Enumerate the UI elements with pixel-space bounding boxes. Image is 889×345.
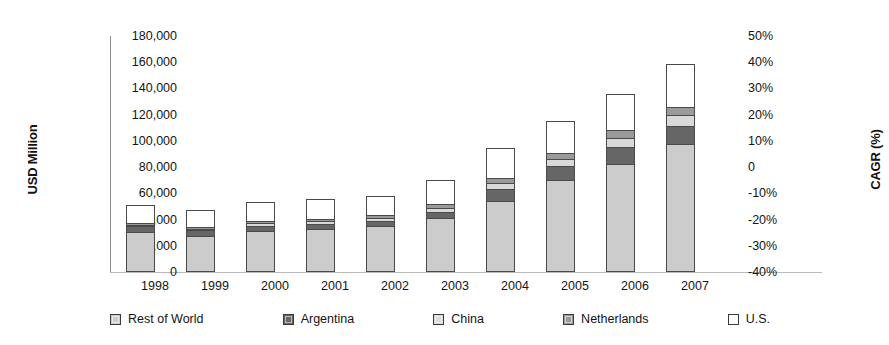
y-tick-right-3: -10%	[748, 187, 828, 199]
bar-1999[interactable]	[186, 210, 215, 272]
bar-segment-rest-of-world-1999	[187, 236, 214, 271]
bar-segment-u-s-1999	[187, 211, 214, 226]
bar-segment-u-s-2004	[487, 149, 514, 178]
legend-swatch-rest-of-world	[110, 314, 121, 325]
bar-2003[interactable]	[426, 180, 455, 272]
bar-segment-rest-of-world-2002	[367, 226, 394, 271]
bar-segment-rest-of-world-2004	[487, 201, 514, 271]
y-axis-title-right: CAGR (%)	[868, 80, 883, 240]
bar-segment-rest-of-world-1998	[127, 232, 154, 271]
chart-container: USD Million CAGR (%) 020,00040,00060,000…	[0, 0, 889, 345]
bar-2004[interactable]	[486, 148, 515, 272]
y-tick-right-0: -40%	[748, 266, 828, 278]
y-tick-right-2: -20%	[748, 214, 828, 226]
bar-segment-u-s-2006	[607, 95, 634, 130]
plot-area	[110, 36, 710, 272]
bar-segment-china-2006	[607, 138, 634, 146]
legend-label-1: Argentina	[301, 312, 355, 326]
y-tick-right-9: 50%	[748, 30, 828, 42]
legend-label-2: China	[451, 312, 484, 326]
bar-1998[interactable]	[126, 205, 155, 272]
bar-segment-u-s-2003	[427, 181, 454, 204]
bar-2006[interactable]	[606, 94, 635, 272]
bar-2007[interactable]	[666, 64, 695, 272]
bar-segment-netherlands-2007	[667, 107, 694, 115]
bar-2001[interactable]	[306, 199, 335, 272]
bar-2000[interactable]	[246, 202, 275, 272]
chart-legend: Rest of WorldArgentinaChinaNetherlandsU.…	[110, 312, 770, 326]
y-tick-right-5: 10%	[748, 135, 828, 147]
legend-swatch-argentina	[283, 314, 294, 325]
y-tick-right-7: 30%	[748, 82, 828, 94]
bar-segment-u-s-2000	[247, 203, 274, 221]
legend-swatch-china	[433, 314, 444, 325]
bar-segment-argentina-2005	[547, 166, 574, 180]
legend-item-rest-of-world[interactable]: Rest of World	[110, 312, 204, 326]
bar-segment-rest-of-world-2000	[247, 231, 274, 271]
y-tick-right-8: 40%	[748, 56, 828, 68]
bar-2005[interactable]	[546, 121, 575, 272]
legend-item-u-s[interactable]: U.S.	[728, 312, 770, 326]
legend-swatch-netherlands	[563, 314, 574, 325]
bar-segment-argentina-2007	[667, 126, 694, 145]
legend-item-netherlands[interactable]: Netherlands	[563, 312, 648, 326]
bar-segment-netherlands-2006	[607, 130, 634, 138]
x-label-2007: 2007	[660, 279, 730, 293]
y-tick-right-4: 0	[748, 161, 828, 173]
bar-segment-china-2007	[667, 115, 694, 125]
bar-segment-rest-of-world-2006	[607, 164, 634, 271]
bar-segment-u-s-1998	[127, 206, 154, 223]
y-tick-right-1: -30%	[748, 240, 828, 252]
bar-segment-u-s-2005	[547, 122, 574, 153]
bar-segment-u-s-2007	[667, 65, 694, 107]
legend-label-3: Netherlands	[581, 312, 648, 326]
legend-swatch-us	[728, 314, 739, 325]
bar-segment-argentina-2004	[487, 189, 514, 201]
bar-segment-rest-of-world-2001	[307, 229, 334, 271]
bar-2002[interactable]	[366, 196, 395, 272]
legend-item-argentina[interactable]: Argentina	[283, 312, 355, 326]
bar-segment-argentina-2006	[607, 147, 634, 165]
bar-segment-u-s-2002	[367, 197, 394, 215]
legend-label-0: Rest of World	[128, 312, 204, 326]
bar-segment-china-2005	[547, 159, 574, 166]
bar-segment-rest-of-world-2005	[547, 180, 574, 271]
bar-segment-u-s-2001	[307, 200, 334, 218]
bar-segment-rest-of-world-2003	[427, 218, 454, 271]
bar-segment-rest-of-world-2007	[667, 144, 694, 271]
x-axis-line	[110, 272, 822, 273]
y-axis-title-left: USD Million	[25, 80, 40, 240]
legend-item-china[interactable]: China	[433, 312, 484, 326]
y-tick-right-6: 20%	[748, 109, 828, 121]
legend-label-4: U.S.	[746, 312, 770, 326]
